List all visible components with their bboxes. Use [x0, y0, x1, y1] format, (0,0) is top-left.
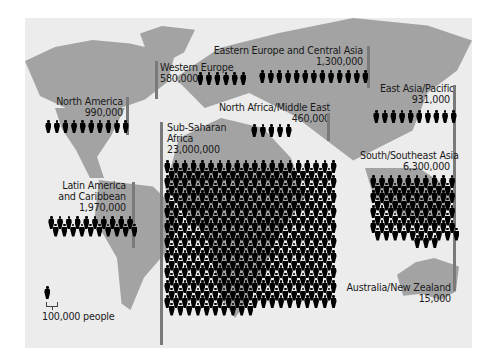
person-icon [216, 250, 225, 258]
person-icon [312, 250, 321, 258]
person-icon [294, 175, 303, 183]
person-icon [400, 228, 409, 236]
person-icon [185, 168, 194, 176]
person-icon [432, 110, 441, 123]
person-icon [211, 303, 220, 311]
person-icon [448, 205, 457, 213]
figure-row [369, 190, 461, 198]
person-icon [229, 303, 238, 311]
person-icon [242, 205, 251, 213]
person-icon [229, 213, 238, 221]
person-icon [233, 235, 242, 243]
person-icon [372, 110, 381, 123]
person-icon [167, 183, 176, 191]
person-icon [181, 160, 190, 168]
person-icon [242, 190, 251, 198]
person-icon [369, 220, 378, 228]
person-icon [216, 265, 225, 273]
person-icon [229, 273, 238, 281]
person-icon [443, 198, 452, 206]
person-icon [439, 205, 448, 213]
person-icon [185, 303, 194, 311]
person-icon [233, 190, 242, 198]
person-icon [198, 205, 207, 213]
person-icon [408, 213, 417, 221]
label-north-america: North America 990,000 [44, 96, 123, 118]
person-icon [86, 224, 95, 232]
person-icon [237, 273, 246, 281]
person-icon [321, 250, 330, 258]
person-icon [430, 175, 439, 183]
person-icon [230, 72, 239, 85]
figure-row [167, 228, 338, 236]
person-icon [369, 205, 378, 213]
person-icon [312, 205, 321, 213]
person-icon [286, 265, 295, 273]
person-icon [91, 216, 100, 224]
person-icon [202, 258, 211, 266]
person-icon [255, 168, 264, 176]
person-icon [211, 198, 220, 206]
person-icon [272, 273, 281, 281]
person-icon [259, 235, 268, 243]
person-icon [312, 235, 321, 243]
person-icon [264, 168, 273, 176]
person-icon [121, 120, 130, 133]
person-icon [316, 288, 325, 296]
figure-row [373, 183, 461, 191]
person-icon [329, 220, 338, 228]
person-icon [272, 213, 281, 221]
person-icon [167, 168, 176, 176]
person-icon [73, 216, 82, 224]
person-icon [194, 198, 203, 206]
person-icon [194, 303, 203, 311]
person-icon [167, 288, 176, 296]
person-icon [96, 120, 105, 133]
person-icon [202, 303, 211, 311]
person-icon [255, 288, 264, 296]
person-icon [391, 213, 400, 221]
person-icon [167, 198, 176, 206]
person-icon [229, 183, 238, 191]
person-icon [233, 280, 242, 288]
person-icon [281, 228, 290, 236]
person-icon [404, 190, 413, 198]
person-icon [207, 265, 216, 273]
person-icon [303, 205, 312, 213]
person-icon [56, 216, 65, 224]
figure-row [373, 228, 461, 236]
person-icon [290, 273, 299, 281]
person-icon [408, 183, 417, 191]
person-icon [259, 175, 268, 183]
person-icon [259, 250, 268, 258]
person-icon [216, 295, 225, 303]
person-icon [290, 213, 299, 221]
bar-north-africa [327, 113, 330, 141]
person-icon [202, 243, 211, 251]
person-icon [233, 160, 242, 168]
person-icon [422, 175, 431, 183]
person-icon [286, 250, 295, 258]
person-icon [290, 288, 299, 296]
figure-row [369, 175, 461, 183]
person-icon [272, 168, 281, 176]
person-icon [422, 205, 431, 213]
person-icon [294, 265, 303, 273]
person-icon [387, 190, 396, 198]
person-icon [378, 175, 387, 183]
person-icon [87, 120, 96, 133]
person-icon [307, 198, 316, 206]
person-icon [391, 228, 400, 236]
person-icon [229, 198, 238, 206]
figure-row [163, 235, 338, 243]
person-icon [95, 224, 104, 232]
person-icon [404, 205, 413, 213]
figures-eastern-europe [258, 70, 373, 83]
person-icon [224, 175, 233, 183]
person-icon [176, 243, 185, 251]
person-icon [316, 168, 325, 176]
person-icon [281, 258, 290, 266]
person-icon [185, 213, 194, 221]
person-icon [181, 190, 190, 198]
figure-row [163, 265, 338, 273]
